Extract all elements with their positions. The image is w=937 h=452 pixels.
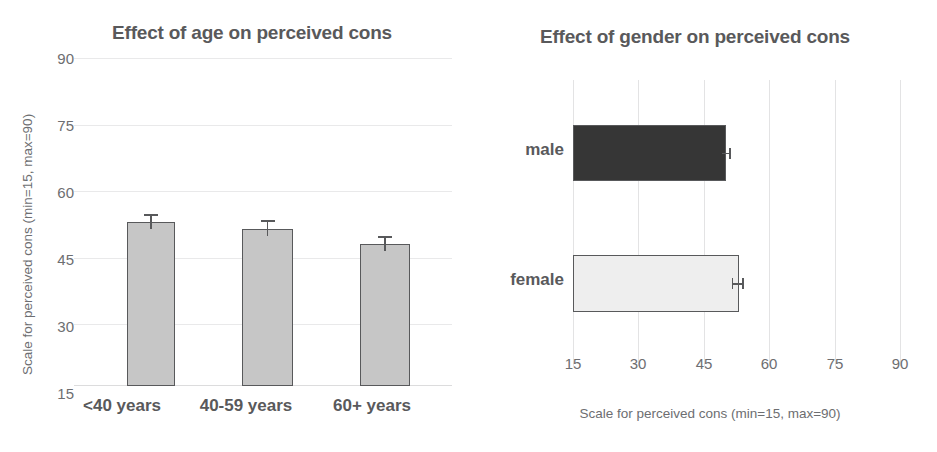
x-tick-label-60: 60	[754, 355, 784, 372]
x-category-label-40-59: 40-59 years	[180, 396, 312, 416]
error-bar-cap-age-60-plus	[378, 236, 392, 238]
plot-area-age	[80, 58, 452, 386]
panel-effect-of-age: Effect of age on perceived cons Scale fo…	[0, 0, 470, 452]
gridline-x-45	[704, 80, 705, 366]
x-tick-label-90: 90	[885, 355, 915, 372]
y-category-label-female: female	[470, 270, 564, 290]
y-axis-title-age: Scale for perceived cons (min=15, max=90…	[0, 0, 22, 452]
y-tick-label-75: 75	[44, 117, 74, 134]
error-bar-line-age-under-40	[150, 215, 152, 229]
two-panel-bar-chart-figure: Effect of age on perceived cons Scale fo…	[0, 0, 937, 452]
error-bar-cap-gender-male	[729, 148, 731, 159]
x-tick-label-75: 75	[820, 355, 850, 372]
x-category-label-under-40: <40 years	[62, 396, 182, 416]
gridline-60	[74, 191, 452, 192]
gridline-75	[74, 125, 452, 126]
gridline-x-60	[769, 80, 770, 366]
y-tick-label-30: 30	[44, 318, 74, 335]
y-category-label-male: male	[480, 140, 564, 160]
bar-gender-female	[573, 255, 739, 312]
chart-title-age: Effect of age on perceived cons	[62, 22, 442, 44]
error-bar-cap-age-40-59	[261, 220, 275, 222]
gridline-x-30	[638, 80, 639, 366]
bar-gender-male	[573, 125, 726, 181]
gridline-90	[74, 58, 452, 59]
chart-title-gender: Effect of gender on perceived cons	[495, 26, 895, 48]
gridline-x-90	[900, 80, 901, 366]
x-axis-title-gender: Scale for perceived cons (min=15, max=90…	[530, 406, 890, 421]
bar-age-40-59	[242, 229, 293, 386]
error-bar-cap-gender-female-right	[742, 278, 744, 289]
x-tick-label-45: 45	[689, 355, 719, 372]
y-tick-label-60: 60	[44, 184, 74, 201]
plot-area-gender	[573, 80, 900, 352]
panel-effect-of-gender: Effect of gender on perceived cons male …	[470, 0, 937, 452]
x-category-label-60-plus: 60+ years	[312, 396, 432, 416]
error-bar-cap-gender-female-left	[732, 278, 734, 289]
bar-age-under-40	[127, 222, 175, 386]
gridline-x-15	[573, 80, 574, 366]
y-tick-label-90: 90	[44, 50, 74, 67]
bar-age-60-plus	[360, 244, 410, 386]
x-tick-label-30: 30	[623, 355, 653, 372]
error-bar-line-age-60-plus	[384, 237, 386, 251]
gridline-x-75	[835, 80, 836, 366]
x-tick-label-15: 15	[558, 355, 588, 372]
y-tick-label-45: 45	[44, 251, 74, 268]
y-axis-title-age-text: Scale for perceived cons (min=15, max=90…	[20, 114, 35, 375]
error-bar-cap-age-under-40	[144, 214, 158, 216]
error-bar-line-age-40-59	[267, 221, 269, 236]
